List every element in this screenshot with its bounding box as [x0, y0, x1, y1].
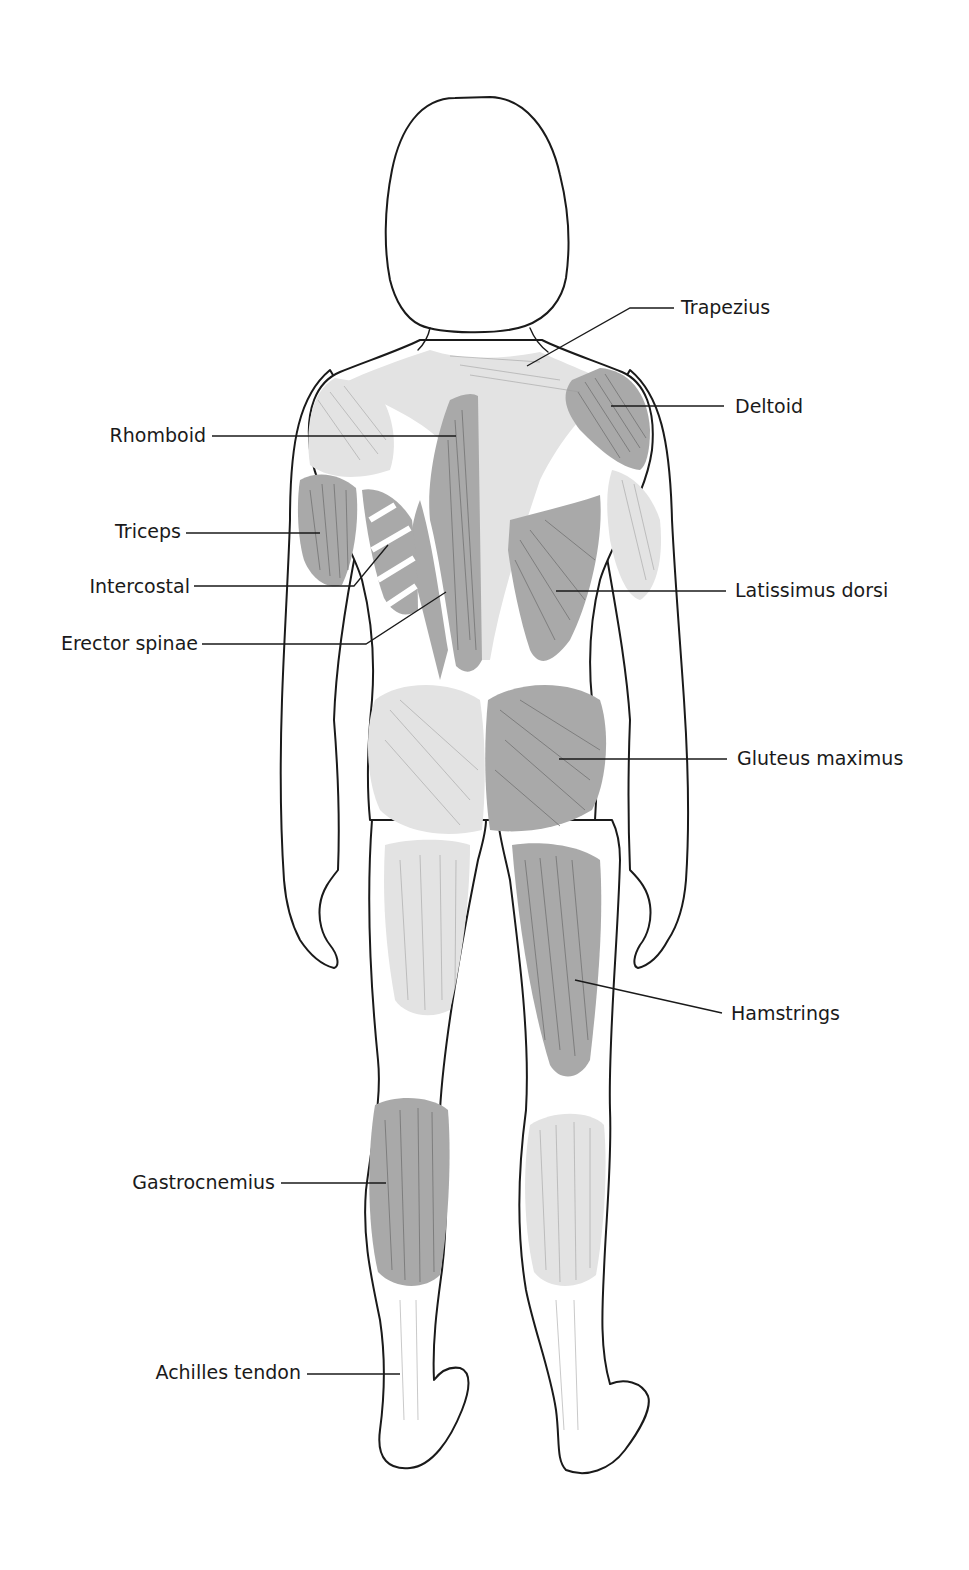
label-gluteus-maximus: Gluteus maximus [737, 749, 903, 768]
label-gastrocnemius: Gastrocnemius [132, 1173, 275, 1192]
label-hamstrings: Hamstrings [731, 1004, 840, 1023]
label-achilles-tendon: Achilles tendon [155, 1363, 301, 1382]
label-rhomboid: Rhomboid [110, 426, 206, 445]
body-illustration [0, 0, 969, 1570]
muscle-diagram: Trapezius Deltoid Latissimus dorsi Glute… [0, 0, 969, 1570]
label-triceps: Triceps [115, 522, 181, 541]
label-trapezius: Trapezius [681, 298, 770, 317]
label-deltoid: Deltoid [735, 397, 803, 416]
label-erector-spinae: Erector spinae [61, 634, 198, 653]
label-intercostal: Intercostal [89, 577, 190, 596]
label-latissimus-dorsi: Latissimus dorsi [735, 581, 888, 600]
